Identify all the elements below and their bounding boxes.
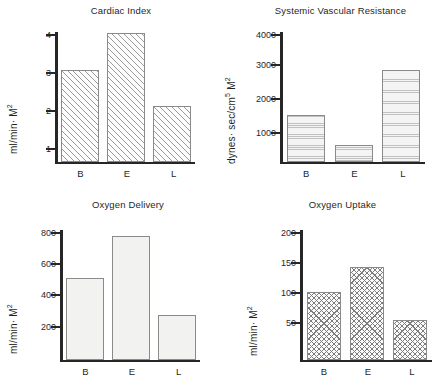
y-axis-label-text: ml/min· M xyxy=(8,108,19,154)
bar-group-oxygen-uptake xyxy=(303,230,433,360)
y-tick-label-200: 200 xyxy=(41,323,56,332)
x-label-b: B xyxy=(57,168,104,179)
bar-b xyxy=(287,115,325,162)
y-tick-label-200: 200 xyxy=(281,229,296,238)
bar-group-cardiac-index xyxy=(58,32,196,162)
bar-slot-b xyxy=(58,32,104,162)
y-axis-label-tail: M xyxy=(226,81,237,93)
x-label-e: E xyxy=(346,366,390,377)
bar-slot-l xyxy=(389,230,432,360)
bar-l xyxy=(382,70,420,162)
x-axis-labels-oxygen-delivery: B E L xyxy=(62,366,202,377)
y-axis-label-text: ml/min· M xyxy=(248,310,259,356)
bar-e xyxy=(350,267,384,360)
x-axis-labels-cardiac-index: B E L xyxy=(57,168,197,179)
y-tick-label-100: 100 xyxy=(281,289,296,298)
panel-oxygen-uptake: Oxygen Uptake ml/min· M2 200 150 100 50 xyxy=(220,194,441,388)
bar-b xyxy=(61,70,99,162)
bar-group-systemic-vascular-resistance xyxy=(283,32,426,162)
y-axis-label-superscript: 2 xyxy=(6,104,13,108)
panel-title-systemic-vascular-resistance: Systemic Vascular Resistance xyxy=(220,5,441,16)
x-label-l: L xyxy=(390,366,434,377)
x-label-e: E xyxy=(104,168,151,179)
panel-cardiac-index: Cardiac Index ml/min· M2 4 3 2 1 xyxy=(0,0,220,194)
bar-slot-l xyxy=(149,32,195,162)
x-label-e: E xyxy=(330,168,378,179)
x-label-b: B xyxy=(302,366,346,377)
plot-area-oxygen-delivery: 800 600 400 200 xyxy=(60,230,200,362)
x-label-e: E xyxy=(109,366,156,377)
y-axis-label-text: dynes· sec/cm xyxy=(226,97,237,164)
x-label-b: B xyxy=(62,366,109,377)
y-axis-label-superscript: 5 xyxy=(224,93,231,97)
bar-slot-e xyxy=(330,32,378,162)
bar-l xyxy=(153,106,191,162)
panel-title-oxygen-uptake: Oxygen Uptake xyxy=(220,199,441,210)
bar-slot-e xyxy=(346,230,389,360)
y-tick-label-1: 1 xyxy=(46,145,51,154)
x-label-b: B xyxy=(282,168,330,179)
bar-slot-l xyxy=(154,230,200,360)
x-label-l: L xyxy=(155,366,202,377)
x-label-l: L xyxy=(150,168,197,179)
bar-slot-e xyxy=(103,32,149,162)
x-axis-line xyxy=(280,162,425,165)
y-axis-label-oxygen-uptake: ml/min· M2 xyxy=(246,244,259,356)
y-axis-label-superscript: 2 xyxy=(246,306,253,310)
bar-l xyxy=(393,320,427,360)
panel-systemic-vascular-resistance: Systemic Vascular Resistance dynes· sec/… xyxy=(220,0,441,194)
x-axis-labels-oxygen-uptake: B E L xyxy=(302,366,434,377)
y-tick-label-50: 50 xyxy=(286,319,296,328)
bar-l xyxy=(158,315,196,360)
x-label-l: L xyxy=(379,168,427,179)
bar-e xyxy=(335,145,373,162)
x-axis-line xyxy=(55,162,195,165)
bar-b xyxy=(307,292,341,360)
y-tick-label-3000: 3000 xyxy=(256,61,276,70)
bar-slot-l xyxy=(378,32,426,162)
x-axis-line xyxy=(60,360,200,363)
plot-area-oxygen-uptake: 200 150 100 50 xyxy=(300,230,432,362)
bar-e xyxy=(107,33,145,162)
bar-e xyxy=(112,236,150,360)
bar-slot-b xyxy=(303,230,346,360)
y-axis-label-systemic-vascular-resistance: dynes· sec/cm5 M2 xyxy=(224,28,237,164)
y-tick-label-2000: 2000 xyxy=(256,95,276,104)
y-axis-label-cardiac-index: ml/min· M2 xyxy=(6,42,19,154)
four-panel-bar-figure: Cardiac Index ml/min· M2 4 3 2 1 xyxy=(0,0,441,388)
y-axis-label-oxygen-delivery: ml/min· M2 xyxy=(6,242,19,354)
panel-title-oxygen-delivery: Oxygen Delivery xyxy=(0,199,220,210)
panel-oxygen-delivery: Oxygen Delivery ml/min· M2 800 600 400 2… xyxy=(0,194,220,388)
bar-b xyxy=(66,278,104,360)
panel-title-cardiac-index: Cardiac Index xyxy=(0,5,220,16)
y-tick-label-3: 3 xyxy=(46,69,51,78)
x-axis-labels-systemic-vascular-resistance: B E L xyxy=(282,168,427,179)
y-tick-label-150: 150 xyxy=(281,259,296,268)
y-tick-label-600: 600 xyxy=(41,260,56,269)
y-axis-label-superscript: 2 xyxy=(6,304,13,308)
bar-slot-b xyxy=(63,230,109,360)
plot-area-cardiac-index: 4 3 2 1 xyxy=(55,32,195,164)
bar-slot-b xyxy=(283,32,331,162)
plot-area-systemic-vascular-resistance: 4000 3000 2000 1000 xyxy=(280,32,425,164)
bar-group-oxygen-delivery xyxy=(63,230,201,360)
x-axis-line xyxy=(300,360,432,363)
y-tick-label-4000: 4000 xyxy=(256,31,276,40)
bar-slot-e xyxy=(108,230,154,360)
y-axis-label-text: ml/min· M xyxy=(8,308,19,354)
y-tick-label-4: 4 xyxy=(46,31,51,40)
y-axis-label-superscript-2: 2 xyxy=(224,77,231,81)
y-tick-label-1000: 1000 xyxy=(256,129,276,138)
y-tick-label-2: 2 xyxy=(46,107,51,116)
y-tick-label-800: 800 xyxy=(41,229,56,238)
y-tick-label-400: 400 xyxy=(41,291,56,300)
